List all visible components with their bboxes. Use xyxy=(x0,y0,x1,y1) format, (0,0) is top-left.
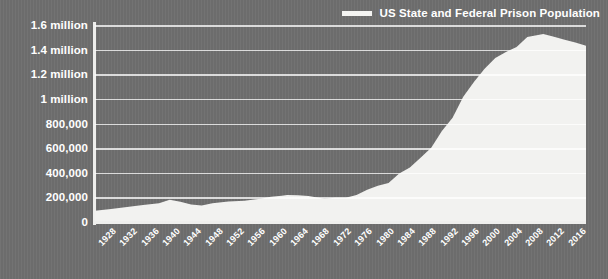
x-tick-label-1980: 1980 xyxy=(374,226,396,248)
x-tick-label-1952: 1952 xyxy=(224,226,246,248)
x-tick-label-1968: 1968 xyxy=(310,226,332,248)
y-tick-label-1600000: 1.6 million xyxy=(31,19,88,31)
gridline-400000 xyxy=(95,173,586,175)
gridline-1400000 xyxy=(95,50,586,52)
y-tick-label-1200000: 1.2 million xyxy=(31,68,88,80)
x-tick-label-1936: 1936 xyxy=(139,226,161,248)
x-tick-label-1932: 1932 xyxy=(118,226,140,248)
x-tick-label-1960: 1960 xyxy=(267,226,289,248)
x-tick-label-1988: 1988 xyxy=(416,226,438,248)
y-axis-tick-labels: 0200,000400,000600,000800,0001 million1.… xyxy=(0,25,88,222)
x-tick-label-1984: 1984 xyxy=(395,226,417,248)
x-tick-label-1944: 1944 xyxy=(182,226,204,248)
gridline-200000 xyxy=(95,197,586,199)
x-tick-label-2004: 2004 xyxy=(502,226,524,248)
x-tick-label-1996: 1996 xyxy=(459,226,481,248)
gridline-800000 xyxy=(95,124,586,126)
legend-line-swatch xyxy=(342,11,372,16)
x-tick-label-1948: 1948 xyxy=(203,226,225,248)
gridline-1200000 xyxy=(95,74,586,76)
x-tick-label-1956: 1956 xyxy=(246,226,268,248)
x-tick-label-2016: 2016 xyxy=(566,226,588,248)
gridline-1000000 xyxy=(95,99,586,101)
y-tick-label-200000: 200,000 xyxy=(46,191,88,203)
x-axis-tick-labels: 1928193219361940194419481952195619601964… xyxy=(95,226,586,276)
y-tick-label-1400000: 1.4 million xyxy=(31,44,88,56)
x-tick-label-1972: 1972 xyxy=(331,226,353,248)
x-tick-label-1940: 1940 xyxy=(160,226,182,248)
chart-legend: US State and Federal Prison Population xyxy=(342,7,600,19)
y-tick-label-800000: 800,000 xyxy=(46,118,88,130)
x-tick-label-1964: 1964 xyxy=(288,226,310,248)
x-tick-label-2000: 2000 xyxy=(481,226,503,248)
plot-area xyxy=(95,25,586,222)
x-tick-label-1976: 1976 xyxy=(352,226,374,248)
x-tick-label-1928: 1928 xyxy=(96,226,118,248)
x-tick-label-1992: 1992 xyxy=(438,226,460,248)
x-tick-label-2008: 2008 xyxy=(523,226,545,248)
legend-label-prison-population: US State and Federal Prison Population xyxy=(380,7,600,19)
y-tick-label-1000000: 1 million xyxy=(40,93,88,105)
x-axis-line xyxy=(95,221,586,224)
x-tick-label-2012: 2012 xyxy=(545,226,567,248)
gridline-600000 xyxy=(95,148,586,150)
gridline-1600000 xyxy=(95,25,586,27)
y-tick-label-600000: 600,000 xyxy=(46,142,88,154)
y-tick-label-400000: 400,000 xyxy=(46,167,88,179)
y-tick-label-0: 0 xyxy=(82,216,89,228)
chart-root: US State and Federal Prison Population 0… xyxy=(0,0,608,279)
